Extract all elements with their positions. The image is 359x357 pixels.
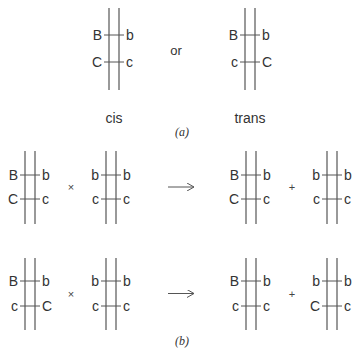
allele-right: b (344, 167, 352, 183)
allele-left: B (230, 167, 239, 183)
allele-right: b (123, 273, 131, 289)
allele-left: B (9, 167, 18, 183)
offspring2-row2: bbCc (310, 258, 352, 330)
parent2-row1: bbcc (91, 151, 131, 224)
allele-left: c (92, 191, 99, 207)
cis-diagram: BbCc (92, 8, 134, 90)
allele-right: b (262, 27, 270, 43)
offspring1-row2: Bbcc (230, 258, 271, 330)
allele-left: b (312, 273, 320, 289)
offspring1-row1: BbCc (229, 151, 271, 224)
allele-left: B (229, 27, 238, 43)
allele-right: c (263, 191, 270, 207)
allele-right: b (123, 167, 131, 183)
panel-b-label: (b) (175, 334, 189, 348)
allele-right: c (344, 298, 351, 314)
allele-left: b (91, 167, 99, 183)
allele-left: c (232, 298, 239, 314)
cross-symbol: × (68, 288, 74, 300)
allele-right: c (263, 298, 270, 314)
panel-a-label: (a) (175, 125, 189, 139)
allele-left: c (11, 298, 18, 314)
allele-left: B (9, 273, 18, 289)
allele-right: c (123, 191, 130, 207)
allele-right: b (263, 273, 271, 289)
allele-right: b (263, 167, 271, 183)
cis-caption: cis (105, 110, 122, 126)
allele-left: c (231, 54, 238, 70)
trans-caption: trans (234, 110, 265, 126)
allele-left: c (313, 191, 320, 207)
plus-symbol: + (289, 181, 295, 193)
allele-left: C (8, 191, 18, 207)
allele-right: c (126, 54, 133, 70)
allele-right: c (123, 298, 130, 314)
trans-diagram: BbcC (229, 8, 272, 90)
offspring2-row1: bbcc (312, 151, 352, 224)
allele-right: c (344, 191, 351, 207)
allele-left: c (92, 298, 99, 314)
allele-right: C (42, 298, 52, 314)
allele-right: c (42, 191, 49, 207)
allele-left: B (93, 27, 102, 43)
parent1-row1: BbCc (8, 151, 50, 224)
genetics-diagram: BbCccisorBbcCtrans(a)BbCc×bbccBbCc+bbccB… (0, 0, 359, 357)
allele-left: B (230, 273, 239, 289)
allele-right: b (42, 167, 50, 183)
cross-symbol: × (68, 181, 74, 193)
allele-left: C (92, 54, 102, 70)
plus-symbol: + (289, 288, 295, 300)
allele-right: b (344, 273, 352, 289)
parent2-row2: bbcc (91, 258, 131, 330)
allele-left: b (91, 273, 99, 289)
allele-left: b (312, 167, 320, 183)
allele-right: C (262, 54, 272, 70)
parent1-row2: BbcC (9, 258, 52, 330)
allele-left: C (229, 191, 239, 207)
or-connector: or (170, 43, 182, 58)
allele-right: b (126, 27, 134, 43)
allele-left: C (310, 298, 320, 314)
allele-right: b (42, 273, 50, 289)
